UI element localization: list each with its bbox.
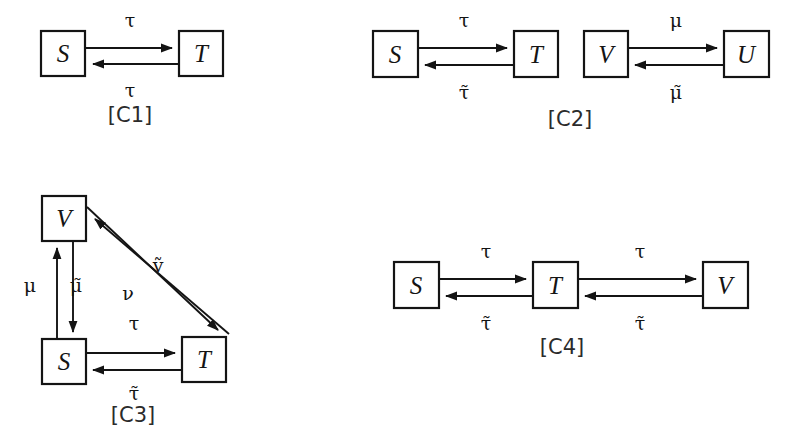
node-label-t: T bbox=[197, 346, 213, 373]
node-t: T bbox=[533, 262, 578, 308]
node-s: S bbox=[394, 262, 439, 308]
edge-label-s-to-t: τ bbox=[125, 9, 136, 31]
caption-c1: [C1] bbox=[108, 103, 152, 127]
edge-label-t-to-s: τ̃ bbox=[459, 81, 470, 103]
edge-label-t-to-v-diagonal: ṽ bbox=[152, 254, 164, 276]
edge-label-u-to-v: μ̃ bbox=[670, 81, 682, 103]
node-label-u: U bbox=[737, 41, 757, 68]
caption-c2: [C2] bbox=[548, 107, 592, 131]
diagram-c1: S T τ τ [C1] bbox=[41, 9, 223, 127]
edge-label-s-to-t: τ bbox=[459, 9, 470, 31]
node-label-t: T bbox=[529, 41, 545, 68]
node-label-s: S bbox=[57, 40, 70, 67]
node-s: S bbox=[373, 31, 418, 77]
edge-label-s-to-t: τ bbox=[481, 240, 492, 262]
edge-label-v-to-u: μ bbox=[670, 9, 682, 31]
node-label-s: S bbox=[389, 41, 402, 68]
diagram-c4: S T V τ τ̃ τ τ̃ [C4] bbox=[394, 240, 748, 359]
edge-label-t-to-s: τ bbox=[125, 79, 136, 101]
edge-t-to-v-diagonal bbox=[95, 219, 229, 334]
diagram-c2: S T V U τ τ̃ μ μ̃ [C2] bbox=[373, 9, 769, 131]
edge-label-s-to-t: τ bbox=[129, 312, 140, 334]
node-v: V bbox=[42, 196, 86, 241]
node-t: T bbox=[182, 337, 226, 382]
node-v: V bbox=[703, 262, 748, 308]
diagram-c3: V S T μ μ̃ τ τ̃ ν ṽ [C3] bbox=[24, 196, 229, 427]
edge-label-v-to-t: τ̃ bbox=[635, 312, 646, 334]
node-label-t: T bbox=[548, 272, 564, 299]
caption-c4: [C4] bbox=[540, 335, 584, 359]
edge-label-t-to-s: τ̃ bbox=[481, 312, 492, 334]
node-s: S bbox=[41, 31, 85, 76]
edge-label-t-to-v: τ bbox=[635, 240, 646, 262]
edge-label-t-to-s: τ̃ bbox=[129, 382, 140, 404]
node-label-s: S bbox=[410, 272, 423, 299]
node-label-s: S bbox=[58, 348, 71, 375]
node-t: T bbox=[514, 31, 558, 77]
node-u: U bbox=[724, 31, 769, 77]
edge-label-s-to-v: μ bbox=[24, 274, 36, 296]
node-v: V bbox=[584, 31, 628, 77]
commutative-diagram-figure: S T τ τ [C1] S T V U τ bbox=[0, 0, 794, 446]
edge-label-v-to-t-diagonal: ν bbox=[122, 282, 134, 304]
node-t: T bbox=[179, 31, 223, 76]
node-label-t: T bbox=[194, 40, 210, 67]
caption-c3: [C3] bbox=[111, 403, 155, 427]
edge-label-v-to-s: μ̃ bbox=[70, 274, 82, 296]
node-s: S bbox=[42, 339, 86, 384]
